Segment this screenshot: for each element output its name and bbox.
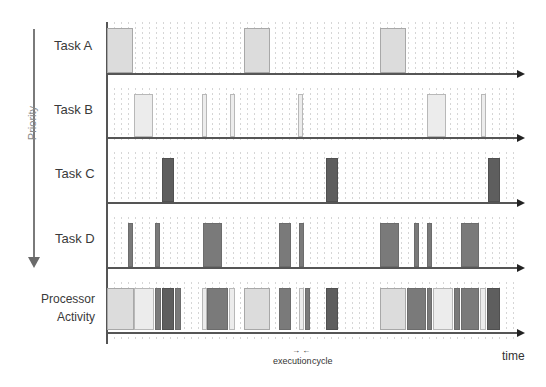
task-c-time-axis	[106, 202, 518, 204]
processor-segment-c	[487, 288, 500, 330]
task-c-execution-block	[162, 158, 174, 202]
grid-d	[108, 217, 518, 271]
processor-segment-d	[454, 288, 460, 330]
processor-label-line1: Processor	[36, 290, 95, 308]
task-b-label: Task B	[54, 102, 93, 117]
axis-arrowhead-icon	[517, 329, 525, 337]
grid-a	[108, 22, 518, 77]
processor-segment-b	[134, 288, 154, 330]
processor-segment-c	[162, 288, 174, 330]
task-a-execution-block	[244, 28, 270, 73]
priority-label: Priority	[26, 93, 38, 153]
processor-segment-d	[207, 288, 228, 330]
processor-segment-d	[175, 288, 181, 330]
processor-segment-d	[461, 288, 479, 330]
execution-label: execution	[273, 356, 312, 366]
processor-segment-a	[380, 288, 406, 330]
processor-segment-c	[326, 288, 338, 330]
processor-segment-d	[407, 288, 426, 330]
processor-segment-d	[279, 288, 291, 330]
task-d-execution-block	[279, 223, 291, 267]
task-b-execution-block	[202, 94, 207, 137]
processor-segment-a	[107, 288, 134, 330]
time-axis-label: time	[502, 349, 525, 363]
task-d-execution-block	[414, 223, 419, 267]
processor-segment-b	[299, 288, 304, 330]
grid-b	[108, 88, 518, 141]
processor-time-axis	[106, 332, 518, 334]
axis-arrowhead-icon	[517, 199, 525, 207]
task-a-time-axis	[106, 73, 518, 75]
axis-arrowhead-icon	[517, 134, 525, 142]
axis-arrowhead-icon	[517, 264, 525, 272]
processor-segment-b	[229, 288, 235, 330]
axis-arrowhead-icon	[517, 70, 525, 78]
processor-segment-b	[480, 288, 486, 330]
task-b-execution-block	[230, 94, 235, 137]
task-d-execution-block	[299, 223, 304, 267]
task-d-time-axis	[106, 267, 518, 269]
processor-label-line2: Activity	[36, 308, 95, 326]
task-d-execution-block	[427, 223, 432, 267]
task-b-execution-block	[427, 94, 446, 137]
task-d-execution-block	[128, 223, 133, 267]
task-c-execution-block	[326, 158, 338, 202]
processor-segment-a	[244, 288, 270, 330]
processor-activity-label: Processor Activity	[36, 290, 95, 326]
processor-segment-d	[427, 288, 432, 330]
priority-arrowhead-icon	[28, 257, 40, 268]
execution-cycle-arrows-icon: → ←	[292, 346, 310, 355]
cycle-label: cycle	[312, 356, 333, 366]
task-d-execution-block	[461, 223, 479, 267]
task-b-time-axis	[106, 137, 518, 139]
task-a-execution-block	[107, 28, 133, 73]
task-d-label: Task D	[55, 231, 95, 246]
task-b-execution-block	[298, 94, 303, 137]
task-b-execution-block	[134, 94, 153, 137]
task-d-execution-block	[203, 223, 222, 267]
task-d-execution-block	[155, 223, 160, 267]
task-a-execution-block	[380, 28, 406, 73]
task-a-label: Task A	[54, 38, 92, 53]
task-b-execution-block	[481, 94, 486, 137]
processor-segment-b	[433, 288, 453, 330]
task-c-execution-block	[488, 158, 500, 202]
processor-segment-d	[305, 288, 310, 330]
task-c-label: Task C	[55, 166, 95, 181]
task-d-execution-block	[380, 223, 399, 267]
processor-segment-d	[155, 288, 161, 330]
